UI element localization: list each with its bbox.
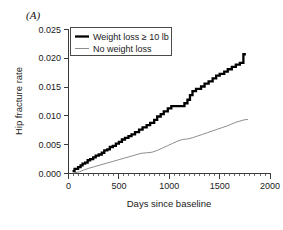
- y-tick-label: 0.010: [38, 111, 61, 121]
- figure-panel-a: (A) 0.000 0.005 0.010 0.015 0.020 0.025: [0, 0, 283, 230]
- series-line-no-weight-loss: [74, 119, 248, 173]
- y-tick-label: 0.015: [38, 82, 61, 92]
- y-tick-label: 0.000: [38, 169, 61, 179]
- x-tick-label: 500: [111, 181, 126, 191]
- x-axis-title: Days since baseline: [127, 198, 212, 209]
- y-axis-tick-labels: 0.000 0.005 0.010 0.015 0.020 0.025: [38, 25, 61, 179]
- legend-label-weight-loss-10lb: Weight loss ≥ 10 lb: [93, 32, 169, 42]
- y-tick-label: 0.020: [38, 53, 61, 63]
- y-axis-title: Hip fracture rate: [13, 67, 24, 135]
- y-tick-label: 0.025: [38, 25, 61, 35]
- x-tick-label: 1000: [159, 181, 179, 191]
- hip-fracture-rate-chart: 0.000 0.005 0.010 0.015 0.020 0.025 0 50…: [0, 0, 283, 230]
- y-tick-label: 0.005: [38, 140, 61, 150]
- x-tick-label: 1500: [210, 181, 230, 191]
- y-axis-ticks: [64, 30, 69, 174]
- x-axis-tick-labels: 0 500 1000 1500 2000: [66, 181, 280, 191]
- legend-label-no-weight-loss: No weight loss: [93, 44, 152, 54]
- x-tick-label: 0: [66, 181, 71, 191]
- series-line-weight-loss-10lb: [73, 54, 246, 171]
- chart-legend: Weight loss ≥ 10 lb No weight loss: [71, 28, 172, 56]
- x-tick-label: 2000: [260, 181, 280, 191]
